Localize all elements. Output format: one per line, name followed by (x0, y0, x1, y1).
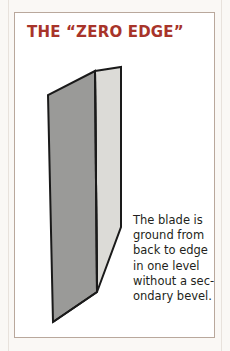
caption-text: The blade is ground from back to edge in… (133, 213, 213, 304)
caption-line: back to edge (133, 243, 213, 258)
caption-line: ground from (133, 228, 213, 243)
page-rule-right (221, 0, 222, 351)
caption-line: The blade is (133, 213, 213, 228)
page-rule-left (8, 0, 9, 351)
caption-line: without a sec- (133, 274, 213, 289)
caption-line: ondary bevel. (133, 289, 213, 304)
page-title: THE “ZERO EDGE” (27, 23, 184, 41)
zero-edge-card: THE “ZERO EDGE” The blade is ground from… (14, 12, 215, 338)
caption-line: in one level (133, 259, 213, 274)
blade-flat-face (95, 67, 121, 292)
page-root: THE “ZERO EDGE” The blade is ground from… (0, 0, 230, 351)
blade-grind-face (48, 71, 97, 322)
